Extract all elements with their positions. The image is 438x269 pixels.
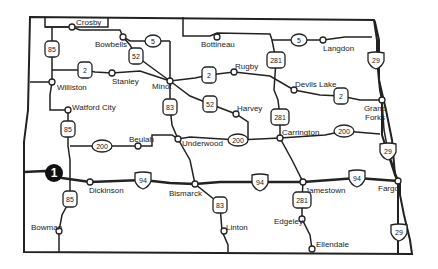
svg-text:85: 85 — [66, 196, 74, 203]
svg-text:83: 83 — [166, 104, 174, 111]
svg-text:5: 5 — [151, 38, 155, 45]
svg-text:2: 2 — [83, 67, 87, 74]
svg-text:281: 281 — [274, 114, 286, 121]
svg-text:94: 94 — [353, 175, 361, 182]
svg-text:29: 29 — [384, 148, 392, 155]
us-route-shield-icon: 83 — [213, 197, 227, 213]
us-route-shield-icon: 2 — [78, 62, 92, 78]
state-route-shield-icon: 200 — [228, 134, 248, 146]
svg-text:29: 29 — [372, 57, 380, 64]
us-route-shield-icon: 2 — [334, 88, 348, 104]
svg-text:281: 281 — [270, 57, 282, 64]
us-route-shield-icon: 52 — [203, 96, 217, 112]
svg-text:94: 94 — [256, 179, 264, 186]
svg-text:5: 5 — [297, 37, 301, 44]
state-route-shield-icon: 200 — [92, 140, 112, 152]
svg-text:200: 200 — [338, 128, 350, 135]
svg-text:200: 200 — [96, 143, 108, 150]
svg-text:281: 281 — [296, 197, 308, 204]
state-route-shield-icon: 5 — [145, 35, 161, 47]
us-route-shield-icon: 85 — [45, 41, 59, 57]
us-route-shield-icon: 2 — [202, 67, 216, 83]
interstate-route-shield-icon: 29 — [368, 52, 384, 69]
state-route-shield-icon: 200 — [334, 125, 354, 137]
interstate-route-shield-icon: 94 — [135, 172, 151, 189]
svg-text:94: 94 — [139, 177, 147, 184]
us-route-shield-icon: 281 — [267, 52, 285, 68]
svg-text:85: 85 — [48, 46, 56, 53]
us-route-shield-icon: 281 — [293, 192, 311, 208]
interstate-route-shield-icon: 29 — [380, 143, 396, 160]
us-route-shield-icon: 281 — [271, 109, 289, 125]
us-route-shield-icon: 52 — [129, 48, 143, 64]
svg-text:52: 52 — [132, 53, 140, 60]
north-dakota-map: 1 CrosbyBowbellsBottineauLangdonWillisto… — [0, 0, 438, 269]
svg-text:200: 200 — [232, 137, 244, 144]
svg-text:52: 52 — [206, 101, 214, 108]
interstate-route-shield-icon: 94 — [252, 174, 268, 191]
svg-text:2: 2 — [339, 93, 343, 100]
interstate-route-shield-icon: 29 — [391, 224, 407, 241]
state-route-shield-icon: 5 — [291, 34, 307, 46]
svg-text:83: 83 — [216, 202, 224, 209]
us-route-shield-icon: 85 — [61, 121, 75, 137]
us-route-shield-icon: 83 — [163, 99, 177, 115]
svg-text:2: 2 — [207, 72, 211, 79]
interstate-route-shield-icon: 94 — [349, 170, 365, 187]
svg-text:29: 29 — [395, 229, 403, 236]
svg-text:85: 85 — [64, 126, 72, 133]
us-route-shield-icon: 85 — [63, 191, 77, 207]
